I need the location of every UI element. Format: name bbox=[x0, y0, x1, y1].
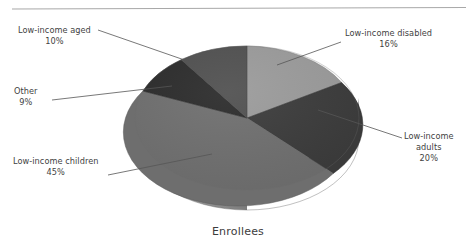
pie-chart-figure: Low-income aged 10% Low-income disabled … bbox=[0, 0, 476, 247]
slice-label-low-income-aged: Low-income aged 10% bbox=[18, 25, 91, 47]
leader-line-aged bbox=[98, 30, 196, 64]
slice-label-value: 45% bbox=[13, 167, 98, 178]
slice-label-name: Other bbox=[14, 86, 38, 97]
slice-label-name: Low-income disabled bbox=[345, 28, 432, 39]
slice-label-name: Low-income aged bbox=[18, 25, 91, 36]
slice-label-low-income-disabled: Low-income disabled 16% bbox=[345, 28, 432, 50]
pie-top-sheen bbox=[135, 46, 359, 190]
slice-label-name-line1: Low-income bbox=[404, 131, 454, 142]
slice-label-low-income-children: Low-income children 45% bbox=[13, 156, 98, 178]
slice-label-value: 20% bbox=[404, 153, 454, 164]
slice-label-name-line2: adults bbox=[404, 142, 454, 153]
pie-top-surface bbox=[123, 46, 362, 206]
slice-label-value: 16% bbox=[345, 39, 432, 50]
top-divider-rule bbox=[12, 8, 466, 10]
chart-title: Enrollees bbox=[0, 225, 476, 238]
slice-label-value: 9% bbox=[14, 97, 38, 108]
slice-label-value: 10% bbox=[18, 36, 91, 47]
slice-label-low-income-adults: Low-income adults 20% bbox=[404, 131, 454, 164]
slice-label-other: Other 9% bbox=[14, 86, 38, 108]
slice-label-name: Low-income children bbox=[13, 156, 98, 167]
